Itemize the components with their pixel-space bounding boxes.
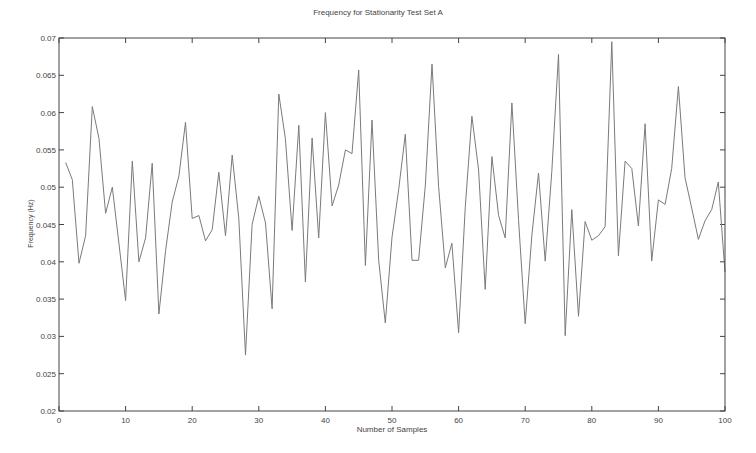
y-tick-label: 0.055 — [36, 146, 57, 155]
x-tick-label: 40 — [321, 416, 330, 425]
y-tick-label: 0.035 — [36, 295, 57, 304]
y-tick-label: 0.05 — [40, 183, 56, 192]
x-tick-label: 90 — [654, 416, 663, 425]
y-tick-label: 0.065 — [36, 71, 57, 80]
x-tick-label: 30 — [254, 416, 263, 425]
x-tick-label: 60 — [454, 416, 463, 425]
plot-frame — [59, 38, 725, 411]
frequency-series-line — [66, 42, 725, 355]
line-chart: 0.020.0250.030.0350.040.0450.050.0550.06… — [0, 0, 756, 453]
y-tick-label: 0.045 — [36, 221, 57, 230]
x-tick-label: 50 — [388, 416, 397, 425]
x-axis-ticks: 0102030405060708090100 — [57, 38, 732, 425]
x-tick-label: 20 — [188, 416, 197, 425]
y-tick-label: 0.025 — [36, 370, 57, 379]
y-tick-label: 0.02 — [40, 407, 56, 416]
y-tick-label: 0.06 — [40, 109, 56, 118]
y-tick-label: 0.07 — [40, 34, 56, 43]
x-tick-label: 0 — [57, 416, 62, 425]
x-tick-label: 100 — [718, 416, 732, 425]
x-tick-label: 70 — [521, 416, 530, 425]
x-tick-label: 80 — [587, 416, 596, 425]
x-tick-label: 10 — [121, 416, 130, 425]
y-tick-label: 0.03 — [40, 332, 56, 341]
y-axis-ticks: 0.020.0250.030.0350.040.0450.050.0550.06… — [36, 34, 725, 416]
y-tick-label: 0.04 — [40, 258, 56, 267]
